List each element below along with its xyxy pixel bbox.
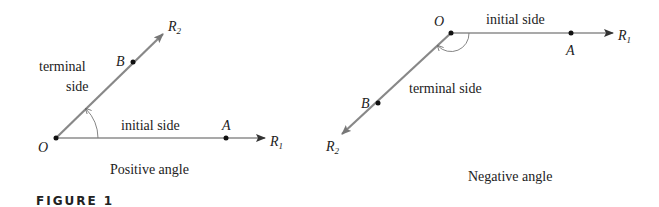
negative-angle-caption: Negative angle — [468, 169, 552, 184]
point-o — [449, 31, 454, 36]
point-b — [376, 101, 381, 106]
initial-side-label: initial side — [121, 118, 180, 133]
ray2-label: R2 — [325, 139, 340, 156]
point-a — [224, 136, 229, 141]
origin-label: O — [38, 140, 48, 155]
point-a — [569, 31, 574, 36]
point-a-label: A — [565, 43, 575, 58]
ray2-label: R2 — [167, 19, 182, 36]
terminal-side-label: terminal side — [409, 81, 482, 96]
angle-arc-cw — [438, 33, 469, 52]
point-b — [131, 60, 136, 65]
point-b-label: B — [361, 96, 370, 111]
negative-angle-diagram: O A B R1 R2 initial side terminal side N… — [325, 12, 631, 184]
origin-label: O — [434, 14, 444, 29]
positive-angle-caption: Positive angle — [110, 162, 189, 177]
point-a-label: A — [221, 118, 231, 133]
ray1-label: R1 — [269, 134, 283, 151]
terminal-side-label-line1: terminal — [39, 59, 86, 74]
positive-angle-diagram: O A B R1 R2 initial side terminal side P… — [38, 19, 283, 177]
point-o — [54, 136, 59, 141]
ray1-label: R1 — [617, 28, 631, 45]
figure-label: FIGURE 1 — [36, 194, 114, 207]
point-b-label: B — [116, 54, 125, 69]
terminal-side-label-line2: side — [66, 79, 89, 94]
initial-side-label: initial side — [486, 12, 545, 27]
figure-canvas: O A B R1 R2 initial side terminal side P… — [0, 0, 659, 207]
angle-arc-ccw — [86, 109, 98, 138]
